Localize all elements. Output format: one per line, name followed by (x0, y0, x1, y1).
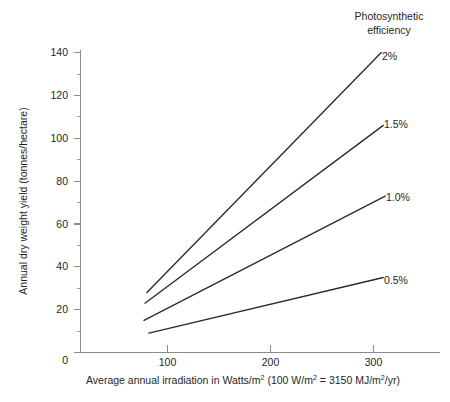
legend-title-line1: Photosynthetic (355, 10, 424, 22)
series-label-2pct: 2% (382, 50, 397, 62)
x-axis-title: Average annual irradiation in Watts/m2 (… (86, 373, 400, 386)
x-axis-title-part3: = 3150 MJ/m (317, 374, 381, 386)
y-tick-label-60: 60 (56, 218, 68, 230)
chart-figure: 140 120 100 80 60 40 20 0 100 200 300 An… (0, 0, 450, 402)
x-tick-label-300: 300 (365, 356, 383, 368)
line-chart: 140 120 100 80 60 40 20 0 100 200 300 An… (0, 0, 450, 402)
x-tick-label-100: 100 (159, 356, 177, 368)
x-axis-title-part2: (100 W/m (265, 374, 314, 386)
y-tick-label-40: 40 (56, 260, 68, 272)
y-tick-label-80: 80 (56, 175, 68, 187)
series-label-1-0pct: 1.0% (386, 191, 410, 203)
y-tick-label-100: 100 (50, 132, 68, 144)
x-axis-title-part1: Average annual irradiation in Watts/m (86, 374, 261, 386)
x-axis-title-part4: /yr) (385, 374, 400, 386)
y-tick-label-120: 120 (50, 89, 68, 101)
y-tick-label-0: 0 (62, 354, 68, 366)
x-tick-label-200: 200 (262, 356, 280, 368)
y-axis-title: Annual dry weight yield (tonnes/hectare) (17, 107, 29, 294)
series-label-0-5pct: 0.5% (384, 274, 408, 286)
series-label-1-5pct: 1.5% (384, 118, 408, 130)
y-tick-label-20: 20 (56, 303, 68, 315)
y-tick-label-140: 140 (50, 46, 68, 58)
legend-title-line2: efficiency (367, 24, 411, 36)
